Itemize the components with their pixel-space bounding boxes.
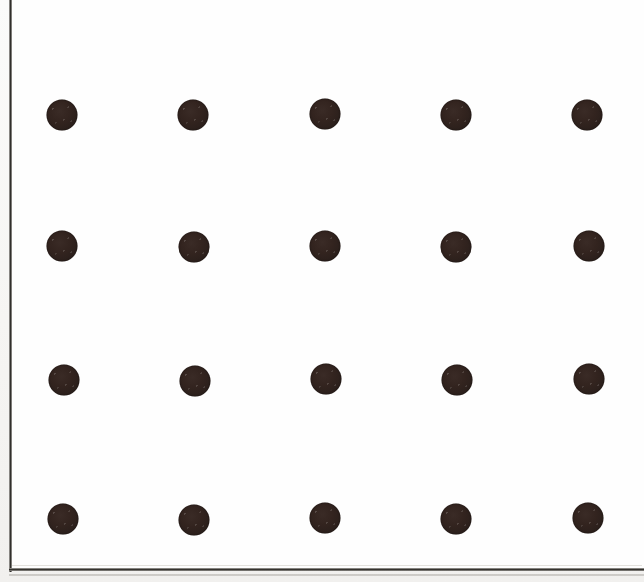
data-point-dot bbox=[574, 231, 605, 262]
data-point-dot bbox=[574, 364, 605, 395]
dot-texture bbox=[573, 503, 604, 534]
dot-texture bbox=[47, 100, 78, 131]
data-point-dot bbox=[572, 100, 603, 131]
dot-texture bbox=[572, 100, 603, 131]
dot-fill bbox=[49, 365, 80, 396]
bottom-rule-shadow bbox=[9, 574, 644, 576]
data-point-dot bbox=[180, 366, 211, 397]
data-point-dot bbox=[441, 232, 472, 263]
dot-fill bbox=[441, 232, 472, 263]
dot-texture bbox=[442, 365, 473, 396]
data-point-dot bbox=[179, 505, 210, 536]
dot-texture bbox=[178, 100, 209, 131]
data-point-dot bbox=[47, 231, 78, 262]
dot-fill bbox=[47, 100, 78, 131]
data-point-dot bbox=[441, 504, 472, 535]
data-point-dot bbox=[178, 100, 209, 131]
dot-texture bbox=[180, 366, 211, 397]
data-point-dot bbox=[442, 365, 473, 396]
dot-texture bbox=[49, 365, 80, 396]
bottom-inner-hairline bbox=[12, 565, 642, 566]
dot-fill bbox=[179, 505, 210, 536]
dot-texture bbox=[441, 504, 472, 535]
data-point-dot bbox=[310, 231, 341, 262]
data-point-dot bbox=[179, 232, 210, 263]
dot-texture bbox=[179, 232, 210, 263]
dot-texture bbox=[47, 231, 78, 262]
data-point-dot bbox=[49, 365, 80, 396]
left-rule-line bbox=[9, 0, 12, 572]
dot-texture bbox=[441, 100, 472, 131]
data-point-dot bbox=[310, 99, 341, 130]
data-point-dot bbox=[47, 100, 78, 131]
dot-texture bbox=[310, 231, 341, 262]
dot-fill bbox=[441, 100, 472, 131]
dot-texture bbox=[441, 232, 472, 263]
data-point-dot bbox=[310, 503, 341, 534]
data-point-dot bbox=[48, 504, 79, 535]
data-point-dot bbox=[441, 100, 472, 131]
dot-fill bbox=[311, 364, 342, 395]
dot-fill bbox=[180, 366, 211, 397]
dot-texture bbox=[311, 364, 342, 395]
dot-texture bbox=[574, 364, 605, 395]
dot-fill bbox=[572, 100, 603, 131]
dot-texture bbox=[179, 505, 210, 536]
dot-fill bbox=[179, 232, 210, 263]
dot-fill bbox=[310, 231, 341, 262]
dot-texture bbox=[574, 231, 605, 262]
dot-texture bbox=[48, 504, 79, 535]
dot-fill bbox=[574, 231, 605, 262]
dot-fill bbox=[178, 100, 209, 131]
dot-fill bbox=[441, 504, 472, 535]
dot-fill bbox=[48, 504, 79, 535]
plot-area bbox=[12, 0, 644, 570]
dot-fill bbox=[574, 364, 605, 395]
dot-texture bbox=[310, 503, 341, 534]
bottom-rule-line bbox=[9, 568, 644, 571]
dot-texture bbox=[310, 99, 341, 130]
dot-fill bbox=[310, 503, 341, 534]
dot-fill bbox=[310, 99, 341, 130]
dot-fill bbox=[47, 231, 78, 262]
data-point-dot bbox=[311, 364, 342, 395]
dot-fill bbox=[442, 365, 473, 396]
figure-root bbox=[0, 0, 644, 582]
data-point-dot bbox=[573, 503, 604, 534]
dot-fill bbox=[573, 503, 604, 534]
